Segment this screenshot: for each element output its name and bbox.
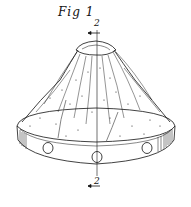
mound-drawing xyxy=(0,0,191,207)
